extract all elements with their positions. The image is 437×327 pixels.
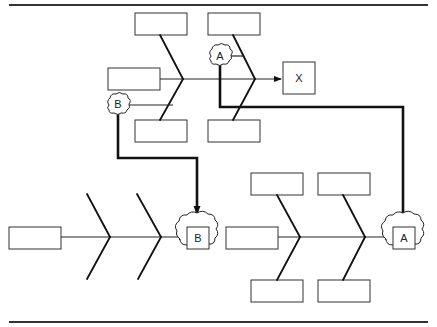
cause-box[interactable] [9,227,61,249]
effect-cloud-b[interactable]: B [175,211,217,249]
bone [160,35,183,79]
cause-box[interactable] [318,173,370,195]
cause-box[interactable] [226,227,278,249]
bone [87,237,110,279]
effect-label-a: A [400,232,408,244]
bone [233,35,255,79]
bone [160,79,183,120]
effect-label-b: B [194,232,201,244]
cause-box[interactable] [251,173,303,195]
cause-box[interactable] [251,280,303,302]
cause-box[interactable] [208,13,260,35]
bone [277,195,300,237]
cloud-b-label: B [114,98,121,110]
bone [87,194,110,237]
bottom-left-fishbone: B [9,194,218,279]
cause-box[interactable] [108,68,160,90]
bone [138,237,161,279]
cause-box[interactable] [318,280,370,302]
effect-cloud-a[interactable]: A [381,211,423,249]
cause-box[interactable] [135,120,187,142]
diagram-canvas: X A B B [0,0,437,327]
effect-label-x: X [295,72,303,84]
cause-box[interactable] [135,13,187,35]
bone [277,237,300,280]
cloud-b-top[interactable]: B [108,93,131,115]
top-fishbone: X [108,13,315,142]
bone [343,195,365,237]
cause-box[interactable] [208,120,260,142]
cloud-a-label: A [216,50,224,62]
cloud-a-top[interactable]: A [210,44,233,66]
bone [343,237,365,280]
bone [233,79,255,120]
bone [137,194,161,237]
bottom-right-fishbone: A [226,173,424,302]
